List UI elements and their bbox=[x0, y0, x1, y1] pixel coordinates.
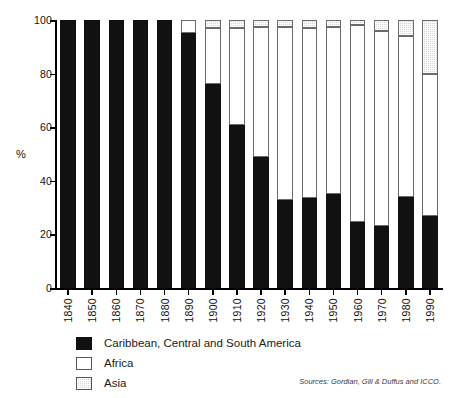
bar-1910 bbox=[229, 20, 245, 288]
y-axis-tick-label: 100 bbox=[34, 14, 52, 26]
x-axis-tick-mark bbox=[67, 289, 69, 295]
bar-segment bbox=[398, 20, 414, 36]
bar-segment bbox=[229, 28, 245, 124]
x-axis-tick-label: 1840 bbox=[62, 298, 74, 323]
bar-1970 bbox=[374, 20, 390, 288]
bar-1890 bbox=[181, 20, 197, 288]
bar-segment bbox=[181, 20, 197, 33]
x-axis-tick-label: 1910 bbox=[231, 298, 243, 323]
bar-segment bbox=[302, 28, 318, 198]
x-axis-tick-mark bbox=[429, 289, 431, 295]
bar-segment bbox=[157, 20, 173, 288]
bar-segment bbox=[253, 157, 269, 288]
bar-1900 bbox=[205, 20, 221, 288]
bar-1940 bbox=[302, 20, 318, 288]
x-axis-tick-mark bbox=[333, 289, 335, 295]
bar-1990 bbox=[422, 20, 438, 288]
x-axis-tick-mark bbox=[236, 289, 238, 295]
x-axis-tick-label: 1990 bbox=[424, 298, 436, 323]
source-note: Sources: Gordian, Gill & Duffus and ICCO… bbox=[299, 377, 441, 386]
y-axis-title: % bbox=[16, 148, 26, 160]
bar-segment bbox=[374, 31, 390, 227]
legend-item-caribbean: Caribbean, Central and South America bbox=[76, 333, 301, 353]
solid-black-swatch-icon bbox=[76, 337, 92, 350]
hatched-gray-swatch-icon bbox=[76, 377, 92, 390]
x-axis-tick-mark bbox=[164, 289, 166, 295]
x-axis-tick-mark bbox=[381, 289, 383, 295]
bar-segment bbox=[398, 197, 414, 288]
bar-segment bbox=[326, 194, 342, 288]
bar-segment bbox=[422, 20, 438, 74]
bar-1880 bbox=[157, 20, 173, 288]
bar-1960 bbox=[350, 20, 366, 288]
x-axis-tick-mark bbox=[405, 289, 407, 295]
legend-label-caribbean: Caribbean, Central and South America bbox=[104, 337, 301, 349]
x-axis-tick-label: 1870 bbox=[134, 298, 146, 323]
x-axis-tick-label: 1970 bbox=[376, 298, 388, 323]
bar-1870 bbox=[133, 20, 149, 288]
bar-segment bbox=[205, 20, 221, 28]
legend: Caribbean, Central and South America Afr… bbox=[76, 333, 301, 393]
x-axis-tick-mark bbox=[284, 289, 286, 295]
x-axis-tick-mark bbox=[260, 289, 262, 295]
bar-segment bbox=[60, 20, 76, 288]
cocoa-production-share-chart: % 020406080100 1840185018601870188018901… bbox=[0, 0, 449, 398]
x-axis-tick-label: 1920 bbox=[255, 298, 267, 323]
bar-segment bbox=[205, 84, 221, 288]
bar-segment bbox=[326, 27, 342, 195]
x-axis-tick-label: 1960 bbox=[352, 298, 364, 323]
bar-1850 bbox=[84, 20, 100, 288]
x-axis-tick-label: 1880 bbox=[159, 298, 171, 323]
bar-segment bbox=[350, 20, 366, 25]
x-axis-tick-mark bbox=[357, 289, 359, 295]
x-axis-tick-label: 1890 bbox=[183, 298, 195, 323]
bar-segment bbox=[229, 125, 245, 288]
x-axis-tick-label: 1950 bbox=[327, 298, 339, 323]
bar-1860 bbox=[109, 20, 125, 288]
legend-label-asia: Asia bbox=[104, 377, 126, 389]
x-axis-tick-mark bbox=[140, 289, 142, 295]
bar-segment bbox=[350, 222, 366, 288]
x-axis-tick-label: 1900 bbox=[207, 298, 219, 323]
outlined-white-swatch-icon bbox=[76, 357, 92, 370]
y-axis-tick-label: 60 bbox=[40, 121, 52, 133]
y-axis-tick-label: 80 bbox=[40, 68, 52, 80]
bar-segment bbox=[253, 27, 269, 157]
bar-segment bbox=[302, 20, 318, 28]
x-axis-tick-mark bbox=[188, 289, 190, 295]
bar-segment bbox=[133, 20, 149, 288]
bar-segment bbox=[109, 20, 125, 288]
bar-segment bbox=[277, 200, 293, 288]
x-axis-tick-mark bbox=[309, 289, 311, 295]
bar-segment bbox=[277, 20, 293, 27]
x-axis-tick-mark bbox=[212, 289, 214, 295]
bar-segment bbox=[205, 28, 221, 84]
x-axis-tick-label: 1980 bbox=[400, 298, 412, 323]
x-axis-tick-mark bbox=[116, 289, 118, 295]
bar-1950 bbox=[326, 20, 342, 288]
bar-segment bbox=[374, 20, 390, 31]
x-axis-tick-label: 1940 bbox=[303, 298, 315, 323]
bar-segment bbox=[326, 20, 342, 27]
bar-1840 bbox=[60, 20, 76, 288]
bar-segment bbox=[253, 20, 269, 27]
bar-segment bbox=[398, 36, 414, 197]
bar-segment bbox=[350, 25, 366, 222]
bar-segment bbox=[84, 20, 100, 288]
bar-segment bbox=[277, 27, 293, 200]
y-axis-tick-label: 20 bbox=[40, 228, 52, 240]
y-axis-tick-label: 40 bbox=[40, 175, 52, 187]
y-axis-tick-label: 0 bbox=[46, 282, 52, 294]
legend-item-asia: Asia bbox=[76, 373, 301, 393]
plot-area: 020406080100 bbox=[56, 20, 442, 288]
bar-segment bbox=[302, 198, 318, 288]
x-axis-tick-label: 1850 bbox=[86, 298, 98, 323]
x-axis-tick-mark bbox=[91, 289, 93, 295]
bar-1930 bbox=[277, 20, 293, 288]
legend-item-africa: Africa bbox=[76, 353, 301, 373]
bar-segment bbox=[422, 74, 438, 216]
x-axis-tick-label: 1860 bbox=[110, 298, 122, 323]
bar-segment bbox=[374, 226, 390, 288]
legend-label-africa: Africa bbox=[104, 357, 133, 369]
bar-1920 bbox=[253, 20, 269, 288]
